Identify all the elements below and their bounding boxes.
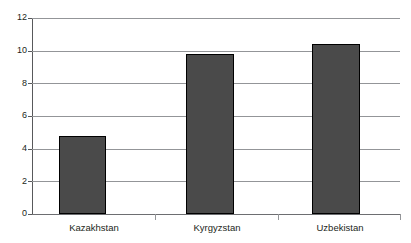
x-tick-label-uzbekistan: Uzbekistan xyxy=(279,222,401,233)
y-tick-label-4: 4 xyxy=(3,144,27,153)
y-tick-label-12: 12 xyxy=(3,13,27,22)
bar-kazakhstan xyxy=(59,136,106,214)
plot-area xyxy=(32,18,400,214)
gridline-12 xyxy=(32,18,400,19)
bar-chart: 12 10 8 6 4 2 0 Kazakhstan Kyrgyzstan Uz… xyxy=(0,0,411,243)
category-divider-tick-3 xyxy=(400,214,401,220)
y-tick-label-8: 8 xyxy=(3,79,27,88)
y-tick-label-10: 10 xyxy=(3,46,27,55)
x-axis-baseline xyxy=(32,214,400,215)
y-tick-label-6: 6 xyxy=(3,111,27,120)
y-tick-label-0: 0 xyxy=(3,209,27,218)
category-divider-tick-1 xyxy=(155,214,156,220)
y-tick-label-2: 2 xyxy=(3,177,27,186)
bar-uzbekistan xyxy=(312,44,360,214)
x-tick-label-kazakhstan: Kazakhstan xyxy=(33,222,155,233)
category-divider-tick-2 xyxy=(278,214,279,220)
x-tick-label-kyrgyzstan: Kyrgyzstan xyxy=(156,222,278,233)
bar-kyrgyzstan xyxy=(186,54,234,214)
y-axis-tick-labels: 12 10 8 6 4 2 0 xyxy=(0,0,27,243)
